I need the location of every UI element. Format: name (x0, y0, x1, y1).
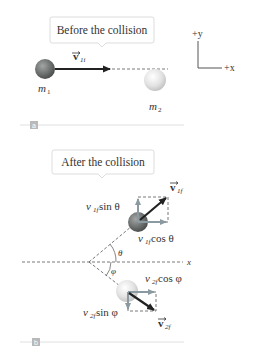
svg-text:v: v (138, 232, 143, 244)
velocity-arrow-v1f (140, 198, 166, 220)
plus-y-label: +y (192, 28, 203, 39)
panel-a: Before the collision v 1i m 1 m 2 +y +x … (20, 17, 235, 129)
panel-a-tag-text: a (32, 122, 36, 129)
x-axis-label: x (186, 257, 191, 267)
svg-text:m: m (38, 82, 46, 94)
callout-before: Before the collision (50, 17, 154, 47)
phi-label: φ (111, 266, 116, 276)
svg-text:v: v (86, 200, 91, 212)
svg-text:1: 1 (47, 88, 51, 96)
callout-after-text: After the collision (61, 156, 145, 168)
svg-text:sin φ: sin φ (96, 306, 118, 318)
svg-text:v: v (83, 306, 88, 318)
svg-text:1i: 1i (80, 56, 86, 64)
svg-text:cos φ: cos φ (158, 272, 182, 284)
callout-before-text: Before the collision (57, 24, 148, 36)
svg-text:v: v (170, 181, 176, 193)
v1f-cos-theta-label: v 1f cos θ (138, 232, 174, 246)
mass1-label: m 1 (38, 82, 51, 96)
coordinate-axes: +y +x (192, 28, 235, 73)
svg-text:v: v (158, 317, 164, 329)
v1f-label: v 1f (170, 181, 184, 195)
theta-label: θ (118, 248, 123, 258)
svg-text:sin θ: sin θ (99, 200, 120, 212)
v2f-label: v 2f (158, 317, 172, 331)
svg-text:v: v (145, 272, 150, 284)
svg-text:1f: 1f (177, 187, 184, 195)
svg-text:2f: 2f (165, 323, 172, 331)
svg-text:2: 2 (158, 106, 162, 114)
theta-arc (110, 244, 116, 262)
svg-text:m: m (149, 100, 157, 112)
callout-after: After the collision (52, 150, 154, 178)
velocity-label-v1i: v 1i (72, 50, 86, 64)
panel-b-tag-text: b (34, 339, 38, 346)
velocity-arrow-v2f (129, 293, 154, 310)
v2f-sin-phi-label: v 2f sin φ (83, 306, 118, 320)
svg-text:cos θ: cos θ (151, 232, 174, 244)
plus-x-label: +x (224, 62, 235, 73)
v1f-sin-theta-label: v 1f sin θ (86, 200, 120, 214)
mass1-sphere (35, 59, 55, 79)
mass2-label: m 2 (149, 100, 162, 114)
collision-diagram: Before the collision v 1i m 1 m 2 +y +x … (0, 0, 255, 355)
panel-b: After the collision x θ φ v 1f v 1f sin … (20, 150, 191, 346)
mass2-sphere (144, 69, 166, 91)
v2f-cos-phi-label: v 2f cos φ (145, 272, 182, 286)
